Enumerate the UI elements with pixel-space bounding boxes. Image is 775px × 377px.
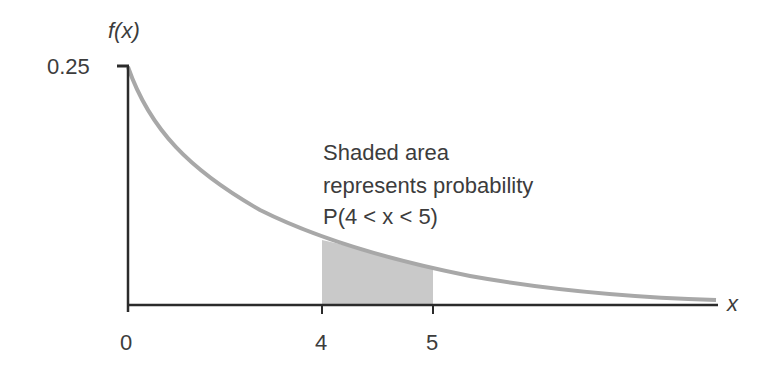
y-axis-label: f(x) [108, 18, 140, 44]
annotation-line-2: represents probability [323, 173, 533, 199]
x-tick-label-0: 0 [120, 330, 132, 356]
annotation-line-1: Shaded area [323, 140, 449, 166]
shaded-area [322, 240, 433, 305]
y-tick-label: 0.25 [47, 54, 90, 80]
x-tick-label-5: 5 [426, 330, 438, 356]
x-tick-label-4: 4 [315, 330, 327, 356]
annotation-line-3: P(4 < x < 5) [323, 204, 438, 230]
x-axis-label: x [727, 291, 738, 317]
